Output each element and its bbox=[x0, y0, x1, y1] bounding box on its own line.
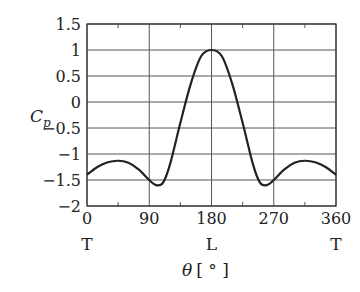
y-axis-label: Cp bbox=[30, 106, 51, 130]
y-tick-label: −2 bbox=[57, 197, 81, 216]
x-axis-label: θ[ ° ] bbox=[182, 260, 229, 280]
x-tick-label: 0 bbox=[82, 209, 92, 228]
x-position-label: T bbox=[330, 234, 342, 254]
y-tick-label: 0.5 bbox=[56, 67, 81, 86]
x-tick-label: 180 bbox=[196, 209, 227, 228]
x-tick-label: 270 bbox=[258, 209, 289, 228]
x-tick-label: 90 bbox=[139, 209, 159, 228]
x-tick-labels: 0T90180L270360T bbox=[81, 209, 351, 254]
x-position-label: L bbox=[206, 234, 217, 254]
grid bbox=[87, 24, 336, 206]
y-tick-label: 1.5 bbox=[56, 15, 81, 34]
y-tick-label: 1 bbox=[71, 41, 81, 60]
chart: 1.510.50−0.5−1−1.5−2 0T90180L270360T Cp … bbox=[0, 0, 360, 292]
x-tick-label: 360 bbox=[321, 209, 352, 228]
y-tick-label: −1.5 bbox=[42, 171, 81, 190]
x-position-label: T bbox=[81, 234, 93, 254]
y-tick-label: −1 bbox=[57, 145, 81, 164]
y-tick-label: 0 bbox=[71, 93, 81, 112]
